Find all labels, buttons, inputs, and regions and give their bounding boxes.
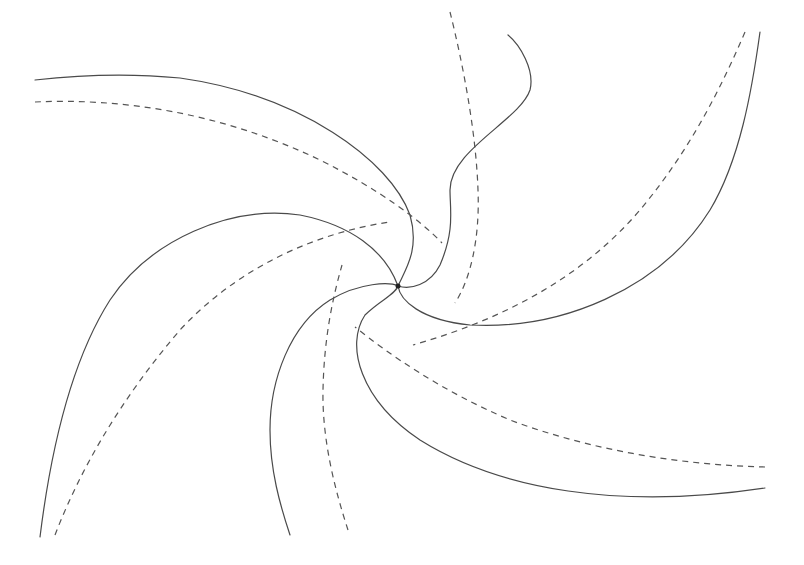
- solid-arm-3: [270, 284, 398, 535]
- solid-arm-2: [40, 213, 398, 537]
- dash-5: [323, 265, 348, 530]
- dash-4: [355, 327, 765, 467]
- vortex-center: [396, 284, 401, 289]
- solid-arm-4: [357, 286, 765, 497]
- dashed-curves: [35, 12, 765, 535]
- dash-6: [55, 222, 390, 535]
- dash-3: [413, 32, 745, 345]
- solid-arm-1: [35, 75, 413, 286]
- dash-1: [35, 101, 442, 243]
- solid-arm-6: [398, 35, 531, 287]
- spiral-vortex-diagram: [0, 0, 804, 565]
